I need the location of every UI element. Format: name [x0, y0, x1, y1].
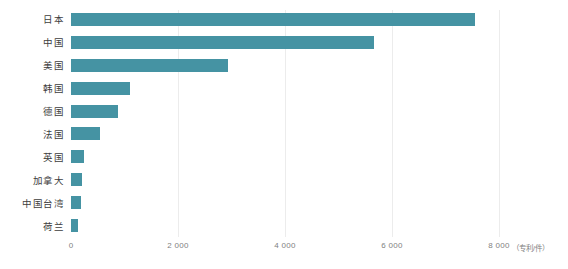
bar-row: 韩国: [71, 77, 499, 100]
category-label: 英国: [43, 150, 64, 164]
bar: [71, 219, 78, 232]
x-axis: （专利/件） 02 0004 0006 0008 000: [71, 241, 499, 255]
category-label: 美国: [43, 58, 64, 72]
bar-row: 美国: [71, 54, 499, 77]
bar-row: 英国: [71, 145, 499, 168]
bar-row: 德国: [71, 100, 499, 123]
category-label: 加拿大: [33, 173, 65, 187]
bar: [71, 82, 130, 95]
bar: [71, 150, 84, 163]
bar: [71, 105, 118, 118]
category-label: 中国: [43, 35, 64, 49]
x-tick-label: 6 000: [381, 241, 403, 250]
bar-row: 中国台湾: [71, 191, 499, 214]
plot-area: 日本 中国 美国 韩国 德国 法国 英国 加拿大 中国台湾 荷兰: [71, 8, 499, 237]
bar: [71, 173, 82, 186]
category-label: 韩国: [43, 81, 64, 95]
bar: [71, 59, 228, 72]
bar-row: 加拿大: [71, 168, 499, 191]
category-label: 日本: [43, 12, 64, 26]
category-label: 中国台湾: [22, 196, 64, 210]
bar: [71, 13, 475, 26]
bar: [71, 196, 81, 209]
bar-row: 法国: [71, 123, 499, 146]
category-label: 法国: [43, 127, 64, 141]
category-label: 荷兰: [43, 219, 64, 233]
patent-bar-chart: 日本 中国 美国 韩国 德国 法国 英国 加拿大 中国台湾 荷兰 （专利/: [0, 0, 568, 269]
x-tick-label: 8 000: [488, 241, 510, 250]
bar-row: 日本: [71, 8, 499, 31]
bar-row: 荷兰: [71, 214, 499, 237]
x-tick-label: 2 000: [167, 241, 189, 250]
x-tick-label: 4 000: [274, 241, 296, 250]
bar: [71, 36, 374, 49]
x-tick-label: 0: [69, 241, 74, 250]
bar-row: 中国: [71, 31, 499, 54]
bar: [71, 127, 100, 140]
bar-rows: 日本 中国 美国 韩国 德国 法国 英国 加拿大 中国台湾 荷兰: [71, 8, 499, 237]
category-label: 德国: [43, 104, 64, 118]
x-axis-unit-label: （专利/件）: [512, 242, 549, 253]
